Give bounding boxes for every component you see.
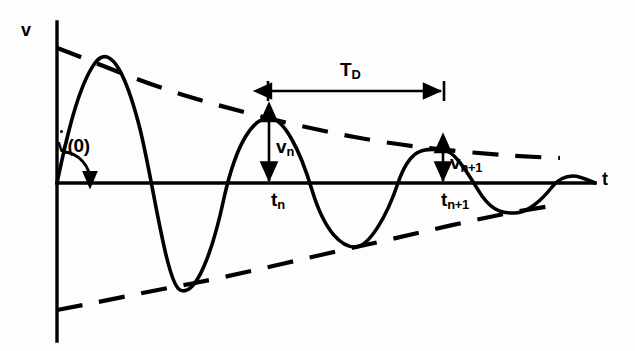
damped-oscillation-chart [0, 0, 635, 351]
amplitude-n-plus-1-base: v [450, 152, 460, 173]
time-n-plus-1-sub: n+1 [447, 197, 469, 212]
time-n-sub: n [277, 197, 285, 212]
initial-velocity-label: v(0) [57, 136, 90, 155]
amplitude-n-base: v [276, 136, 286, 157]
initial-velocity-suffix: (0) [67, 135, 90, 156]
figure-root: v t v(0) TD vn vn+1 tn tn+1 [0, 0, 635, 351]
time-n-plus-1-label: tn+1 [441, 190, 469, 209]
lower-envelope-curve [57, 205, 560, 310]
initial-slope-arc [62, 152, 90, 180]
damped-period-sub: D [351, 67, 360, 82]
initial-velocity-base: v [57, 135, 67, 156]
amplitude-n-sub: n [286, 144, 294, 159]
damped-period-label: TD [340, 60, 360, 79]
amplitude-n-label: vn [276, 137, 294, 156]
vertical-axis-label: v [21, 21, 31, 39]
time-n-label: tn [271, 190, 285, 209]
amplitude-n-plus-1-label: vn+1 [450, 153, 482, 172]
amplitude-n-plus-1-sub: n+1 [460, 160, 482, 175]
horizontal-axis-label: t [602, 170, 608, 188]
damped-period-base: T [340, 59, 351, 80]
